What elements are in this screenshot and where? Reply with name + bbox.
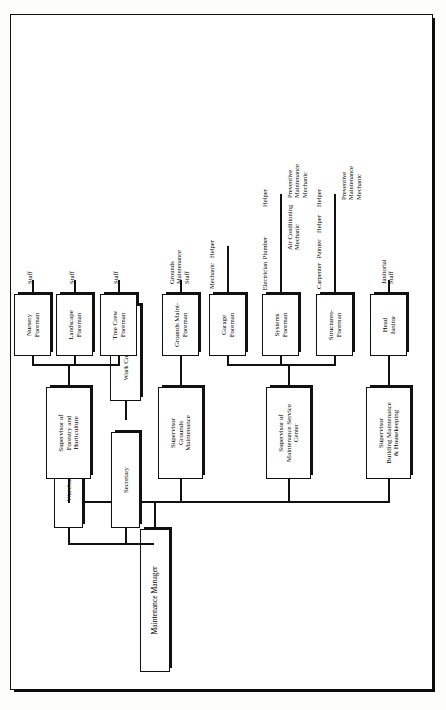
connector-service-stub xyxy=(288,365,290,387)
connector-systems-foreman xyxy=(280,355,282,366)
box-head-janitor[interactable]: Head Janitor xyxy=(370,294,407,356)
box-supervisor-maintenance-service-center[interactable]: Supervisor of Maintenance Service Center xyxy=(266,387,311,479)
connector-sup-grounds xyxy=(180,478,182,503)
label-plumber: Plumber xyxy=(261,230,268,266)
label-preventive-maintenance-mechanic-structures: Preventive Maintenance Mechanic xyxy=(340,130,362,200)
connector-sup-forestry xyxy=(68,478,70,503)
box-secretary[interactable]: Secretary xyxy=(111,432,140,528)
label-preventive-maintenance-mechanic-systems: Preventive Maintenance Mechanic xyxy=(286,128,308,198)
box-structures-foreman[interactable]: Structures- Foreman xyxy=(316,294,353,356)
connector-garage-foreman xyxy=(227,355,229,366)
connector-forestry-rail xyxy=(32,364,120,366)
box-supervisor-building-maintenance[interactable]: Supervisor Building Maintenance & Housek… xyxy=(366,387,411,479)
connector-secretary xyxy=(125,527,127,545)
connector-landscape-foreman xyxy=(74,355,76,366)
box-garage-foreman[interactable]: Garage Foreman xyxy=(209,294,246,356)
org-chart-canvas: Maintenance Manager Warehouseman Secreta… xyxy=(10,14,433,690)
label-tree-crew-staff: Staff xyxy=(112,250,119,284)
connector-sup-service xyxy=(288,478,290,503)
label-landscape-staff: Staff xyxy=(68,250,75,284)
label-nursery-staff: Staff xyxy=(26,250,33,284)
label-janitorial-staff: Janitorial Staff xyxy=(380,224,395,284)
connector-systems-reports xyxy=(280,194,282,294)
connector-forestry-stub xyxy=(68,365,70,387)
connector-structures-reports xyxy=(334,194,336,294)
box-systems-foreman[interactable]: Systems Foreman xyxy=(262,294,299,356)
label-helper-structures-2: Helper xyxy=(315,182,322,214)
connector-sup-building xyxy=(388,478,390,503)
connector-garage-reports xyxy=(227,246,229,294)
box-grounds-maintenance-foreman[interactable]: Grounds Maint- Foreman xyxy=(162,294,199,356)
box-supervisor-forestry-horticulture[interactable]: Supervisor of Forestry and Horticulture xyxy=(46,387,91,479)
box-maintenance-manager[interactable]: Maintenance Manager xyxy=(140,529,170,672)
connector-grounds-foreman xyxy=(180,355,182,387)
connector-staff-rail xyxy=(68,543,154,545)
connector-work-control-clerk xyxy=(125,400,127,420)
connector-root-trunk xyxy=(154,502,156,529)
connector-structures-foreman xyxy=(334,355,336,366)
box-nursery-foreman[interactable]: Nursery Foreman xyxy=(14,294,51,356)
label-grounds-maintenance-staff: Grounds Maintenance Staff xyxy=(168,218,190,284)
connector-head-janitor xyxy=(388,355,390,387)
box-supervisor-grounds-maintenance[interactable]: Supervisor Grounds Maintenance xyxy=(158,387,203,479)
label-helper-garage: Helper xyxy=(208,232,215,266)
box-landscape-foreman[interactable]: Landscape Foreman xyxy=(56,294,93,356)
label-helper-systems: Helper xyxy=(261,182,268,214)
scanned-page: Maintenance Manager Warehouseman Secreta… xyxy=(0,0,446,710)
connector-warehouseman xyxy=(68,527,70,545)
box-tree-crew-foreman[interactable]: Tree Crew Foreman xyxy=(100,294,137,356)
connector-nursery-foreman xyxy=(32,355,34,366)
connector-tree-crew-foreman xyxy=(118,355,120,366)
